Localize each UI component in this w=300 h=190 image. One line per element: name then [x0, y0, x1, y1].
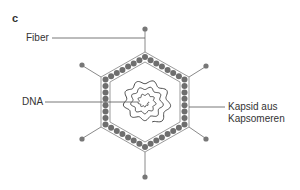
capsomer: [153, 138, 159, 144]
capsomer: [182, 109, 188, 115]
capsomer: [176, 125, 182, 131]
capsomer: [165, 131, 171, 137]
capsomer: [182, 102, 188, 108]
capsomer: [182, 83, 188, 89]
capsomer: [148, 57, 154, 63]
capsomer: [103, 102, 109, 108]
capsomer: [119, 67, 125, 73]
capsomer: [114, 70, 120, 76]
capsomer: [103, 77, 109, 83]
capsomer: [142, 54, 148, 60]
capsomer: [103, 122, 109, 128]
capsid-label-line2: Kapsomeren: [228, 113, 285, 125]
capsomer: [182, 115, 188, 121]
capsomer: [108, 73, 114, 79]
capsomer: [125, 134, 131, 140]
capsomer: [103, 89, 109, 95]
capsomer: [153, 60, 159, 66]
capsomer: [142, 144, 148, 150]
fiber-label: Fiber: [26, 32, 49, 44]
capsomer: [170, 128, 176, 134]
capsomer: [182, 77, 188, 83]
capsomer: [159, 64, 165, 70]
capsomer: [125, 64, 131, 70]
capsomer: [131, 60, 137, 66]
capsomer: [114, 128, 120, 134]
capsomer: [170, 70, 176, 76]
capsomer: [103, 83, 109, 89]
capsomer: [182, 122, 188, 128]
capsomer: [159, 134, 165, 140]
capsomer: [165, 67, 171, 73]
capsomer: [136, 141, 142, 147]
dna-label: DNA: [22, 96, 43, 108]
capsomer: [108, 125, 114, 131]
capsid-label-line1: Kapsid aus: [228, 101, 277, 113]
capsomer: [103, 115, 109, 121]
capsomer: [119, 131, 125, 137]
capsomer: [103, 96, 109, 102]
virus-diagram: [0, 0, 300, 190]
capsomer: [103, 109, 109, 115]
capsomer: [176, 73, 182, 79]
capsomer: [182, 96, 188, 102]
capsomer: [136, 57, 142, 63]
capsomer: [182, 89, 188, 95]
capsomer: [131, 138, 137, 144]
capsomer: [148, 141, 154, 147]
